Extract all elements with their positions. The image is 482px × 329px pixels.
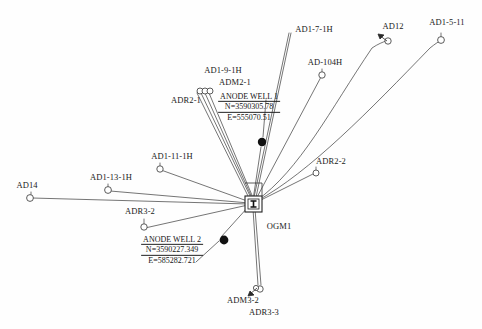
marker-adr2-1[interactable] bbox=[207, 88, 213, 94]
well-label-ad14: AD14 bbox=[16, 181, 37, 190]
marker-ad14[interactable] bbox=[27, 195, 34, 202]
marker-ad1-11-1h[interactable] bbox=[157, 166, 163, 172]
anode-well-1-northing: N=3590305.78 bbox=[218, 102, 280, 112]
marker-adr3-2[interactable] bbox=[141, 224, 147, 230]
marker-anode-well-2[interactable] bbox=[220, 236, 229, 245]
anode-well-markers bbox=[220, 138, 267, 245]
well-label-ad1-5-11: AD1-5-11 bbox=[429, 18, 464, 27]
anode-well-2-easting: E=585282.721 bbox=[141, 256, 203, 265]
line-to-adm3-2 bbox=[253, 209, 258, 285]
diagram-vector-layer bbox=[0, 0, 482, 329]
marker-anode-well-1[interactable] bbox=[258, 138, 266, 146]
marker-ad-104h[interactable] bbox=[319, 72, 325, 78]
well-label-adm2-1: ADM2-1 bbox=[219, 78, 251, 87]
marker-ad1-13-1h[interactable] bbox=[105, 187, 112, 194]
marker-ad12[interactable] bbox=[385, 38, 391, 44]
line-to-ad14 bbox=[32, 198, 248, 204]
well-label-ad-104h: AD-104H bbox=[308, 58, 343, 67]
marker-adm3-2[interactable] bbox=[253, 285, 258, 290]
anode-well-1-callout: ANODE WELL 1 N=3590305.78 E=555070.51 bbox=[218, 92, 280, 122]
well-label-ad1-9-1h: AD1-9-1H bbox=[204, 66, 242, 75]
line-to-ad1-13-1h bbox=[110, 191, 249, 203]
well-layout-diagram: AD1-7-1H AD12 AD1-5-11 AD-104H AD1-9-1H … bbox=[0, 0, 482, 329]
line-to-adr3-3 bbox=[255, 209, 261, 285]
well-label-adr2-1: ADR2-1 bbox=[171, 96, 201, 105]
well-label-ad1-7-1h: AD1-7-1H bbox=[295, 25, 333, 34]
hub-label-ogm1: OGM1 bbox=[267, 222, 292, 231]
well-label-adr2-2: ADR2-2 bbox=[316, 157, 346, 166]
anode-well-1-easting: E=555070.51 bbox=[218, 113, 280, 122]
anode-well-2-callout: ANODE WELL 2 N=3590227.349 E=585282.721 bbox=[141, 235, 203, 265]
well-label-ad1-13-1h: AD1-13-1H bbox=[90, 173, 132, 182]
line-to-adr2-2 bbox=[257, 174, 313, 202]
anode-well-1-title: ANODE WELL 1 bbox=[218, 92, 280, 102]
well-label-adr3-2: ADR3-2 bbox=[125, 207, 155, 216]
well-label-ad12: AD12 bbox=[382, 22, 403, 31]
line-to-ad1-11-1h bbox=[161, 170, 250, 202]
marker-adr2-2[interactable] bbox=[313, 170, 319, 176]
anode-well-2-northing: N=3590227.349 bbox=[141, 245, 203, 255]
marker-ad1-5-11[interactable] bbox=[438, 37, 445, 44]
well-label-adm3-2: ADM3-2 bbox=[227, 296, 259, 305]
well-label-ad1-11-1h: AD1-11-1H bbox=[151, 152, 193, 161]
anode-well-2-title: ANODE WELL 2 bbox=[141, 235, 203, 245]
well-markers bbox=[27, 37, 445, 293]
well-label-adr3-3: ADR3-3 bbox=[249, 308, 279, 317]
